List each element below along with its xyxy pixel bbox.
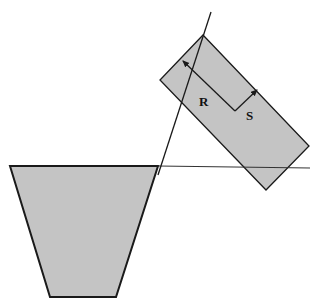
label-r: R xyxy=(199,94,209,109)
diagram-canvas: R S xyxy=(0,0,316,305)
trapezoid-shape xyxy=(10,166,158,297)
label-s: S xyxy=(246,108,253,123)
